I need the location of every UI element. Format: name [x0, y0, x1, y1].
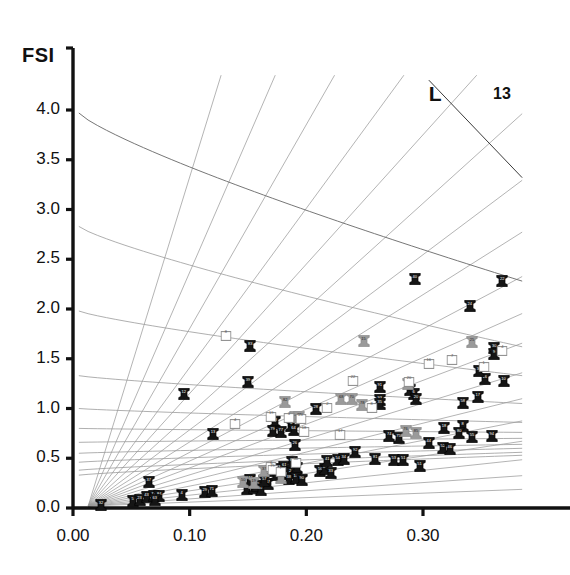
chart-canvas: FSI L 13 0.00.51.01.52.02.53.03.54.00.00… — [0, 0, 570, 575]
data-point-marker: 50 — [290, 454, 301, 464]
data-point-marker: 80 — [453, 425, 466, 437]
data-point-label: 40 — [413, 275, 417, 279]
data-point-label: 51 — [401, 456, 405, 460]
data-point-label: 8 — [371, 402, 373, 406]
data-point-marker: 94 — [485, 428, 498, 440]
data-point-label: 50 — [241, 478, 245, 482]
data-point-marker: 92 — [349, 444, 362, 456]
data-point-label: 81 — [373, 455, 377, 459]
data-point-label: 32 — [99, 501, 103, 505]
y-tick-label: 0.5 — [8, 447, 60, 467]
data-point-label: 78 — [360, 401, 364, 405]
data-point-marker: 7 — [447, 351, 458, 361]
data-point-label: 77 — [278, 428, 282, 432]
data-point-marker: 4 — [230, 415, 241, 425]
data-point-marker: 3 — [283, 409, 294, 419]
data-point-label: 57 — [262, 477, 266, 481]
data-point-marker: 23 — [295, 410, 306, 420]
data-point-marker: 24 — [463, 298, 476, 310]
data-point-marker: 20 — [404, 373, 415, 383]
x-tick-label: 0.20 — [266, 526, 346, 546]
data-point-marker: 51 — [397, 452, 410, 464]
data-point-label: 7 — [451, 354, 453, 358]
data-point-marker: 32 — [95, 497, 108, 509]
data-point-label: 80 — [457, 429, 461, 433]
y-tick-label: 2.5 — [8, 248, 60, 268]
data-point-marker: 10 — [497, 373, 510, 385]
data-point-marker: 85 — [410, 425, 423, 437]
y-tick-label: 3.0 — [8, 199, 60, 219]
data-point-label: 74 — [387, 432, 391, 436]
data-point-marker: 41 — [321, 453, 334, 465]
data-point-label: 19 — [252, 479, 256, 483]
data-point-label: 83 — [248, 342, 252, 346]
data-point-label: 19 — [269, 411, 273, 415]
data-point-label: 58 — [460, 399, 464, 403]
data-point-label: 34 — [341, 455, 345, 459]
data-point-marker: 58 — [456, 395, 469, 407]
data-point-label: 20 — [407, 376, 411, 380]
data-point-label: 90 — [299, 476, 303, 480]
data-point-marker: 71 — [205, 483, 218, 495]
data-point-label: 4 — [501, 345, 503, 349]
data-point-marker: 90 — [295, 472, 308, 484]
data-point-label: 26 — [292, 441, 296, 445]
data-point-label: 3 — [288, 412, 290, 416]
data-point-label: 22 — [500, 277, 504, 281]
data-point-marker: 26 — [288, 437, 301, 449]
data-point-marker: 40 — [408, 271, 421, 283]
data-point-marker: 28 — [309, 401, 322, 413]
data-point-label: 37 — [147, 478, 151, 482]
data-point-marker: 18 — [438, 420, 451, 432]
data-point-label: 91 — [378, 383, 382, 387]
y-tick-label: 0.0 — [8, 497, 60, 517]
y-tick-label: 1.5 — [8, 348, 60, 368]
data-point-marker: 16 — [423, 355, 434, 365]
data-point-marker: 15 — [357, 333, 370, 345]
data-point-marker: 1 — [478, 358, 489, 368]
data-point-label: 17 — [476, 393, 480, 397]
data-point-label: 16 — [427, 358, 431, 362]
data-point-marker: 91 — [373, 379, 386, 391]
data-point-label: 12 — [182, 390, 186, 394]
data-point-label: 10 — [501, 377, 505, 381]
data-point-marker: 2 — [322, 399, 333, 409]
data-point-label: 64 — [291, 426, 295, 430]
data-point-label: 41 — [325, 457, 329, 461]
data-point-label: 18 — [442, 424, 446, 428]
x-tick-label: 0.00 — [33, 526, 113, 546]
data-point-label: 15 — [361, 337, 365, 341]
data-point-label: 33 — [329, 469, 333, 473]
data-point-marker: 22 — [348, 372, 359, 382]
data-point-label: 85 — [414, 429, 418, 433]
y-tick-label: 2.0 — [8, 298, 60, 318]
data-point-label: 28 — [313, 405, 317, 409]
data-point-marker: 8 — [220, 327, 231, 337]
data-point-label: 18 — [302, 426, 306, 430]
axes-layer — [0, 0, 570, 575]
data-point-label: 51 — [417, 462, 421, 466]
data-point-label: 53 — [392, 456, 396, 460]
data-point-label: 4 — [180, 491, 182, 495]
data-point-marker: 22 — [496, 273, 509, 285]
data-point-label: 92 — [353, 448, 357, 452]
data-point-label: 94 — [490, 432, 494, 436]
data-point-label: 71 — [210, 487, 214, 491]
data-point-label: 4 — [234, 418, 236, 422]
data-point-label: 70 — [350, 395, 354, 399]
data-point-marker: 12 — [177, 386, 190, 398]
data-point-label: 46 — [448, 445, 452, 449]
data-point-marker: 81 — [369, 451, 382, 463]
data-point-label: 76 — [403, 427, 407, 431]
data-point-marker: 7 — [275, 463, 286, 473]
data-point-marker: 17 — [335, 426, 346, 436]
data-point-marker: 82 — [279, 394, 292, 406]
data-point-label: 35 — [378, 400, 382, 404]
data-point-label: 1 — [483, 361, 485, 365]
data-point-marker: 19 — [266, 408, 277, 418]
y-tick-label: 4.0 — [8, 99, 60, 119]
data-point-label: 9 — [493, 350, 495, 354]
data-point-marker: 8 — [366, 399, 377, 409]
data-point-marker: 39 — [242, 374, 255, 386]
data-point-label: 39 — [246, 378, 250, 382]
